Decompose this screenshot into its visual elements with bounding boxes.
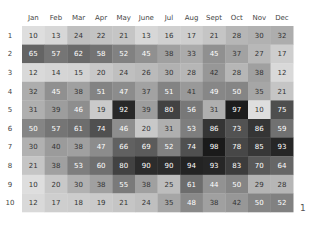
cell-value-label: 30 <box>74 181 83 189</box>
cell-value-label: 13 <box>51 32 60 40</box>
cell-value-label: 32 <box>29 88 38 96</box>
cell-value-label: 38 <box>51 162 60 170</box>
cell-value-label: 80 <box>164 106 173 114</box>
cell-value-label: 19 <box>97 106 106 114</box>
cell-value-label: 86 <box>210 125 219 133</box>
cell-value-label: 92 <box>119 106 128 114</box>
x-tick-label: Jan <box>27 14 39 22</box>
cell-value-label: 10 <box>29 181 38 189</box>
x-tick-label: Oct <box>231 14 243 22</box>
cell-value-label: 59 <box>277 125 286 133</box>
x-tick-label: Apr <box>95 14 107 22</box>
cell-value-label: 64 <box>277 162 286 170</box>
cell-value-label: 37 <box>232 50 241 58</box>
x-tick-label: Sept <box>206 14 222 22</box>
cell-value-label: 65 <box>29 50 38 58</box>
cell-value-label: 69 <box>142 143 151 151</box>
cell-value-label: 21 <box>277 88 286 96</box>
cell-value-label: 14 <box>51 69 60 77</box>
cell-value-label: 30 <box>29 143 38 151</box>
cell-value-label: 51 <box>164 88 173 96</box>
cell-value-label: 12 <box>29 199 38 207</box>
cell-value-label: 74 <box>97 125 106 133</box>
cell-value-label: 20 <box>97 69 106 77</box>
cell-value-label: 38 <box>210 199 219 207</box>
cell-value-label: 50 <box>29 125 38 133</box>
y-tick-label: 8 <box>8 162 12 170</box>
cell-value-label: 50 <box>232 88 241 96</box>
cell-value-label: 28 <box>277 181 286 189</box>
cell-value-label: 46 <box>119 125 128 133</box>
x-tick-label: May <box>116 14 130 22</box>
cell-value-label: 21 <box>29 162 38 170</box>
cell-value-label: 30 <box>164 69 173 77</box>
heatmap-chart: JanFebMarAprMayJuneJulAugSeptOctNovDec12… <box>0 0 316 230</box>
cell-value-label: 53 <box>187 125 196 133</box>
cell-value-label: 73 <box>232 125 241 133</box>
cell-value-label: 17 <box>277 50 286 58</box>
cell-value-label: 62 <box>74 50 83 58</box>
cell-value-label: 45 <box>210 50 219 58</box>
y-tick-label: 7 <box>8 143 12 151</box>
cell-value-label: 49 <box>210 88 219 96</box>
cell-value-label: 21 <box>210 32 219 40</box>
cell-value-label: 66 <box>119 143 128 151</box>
cell-value-label: 38 <box>97 181 106 189</box>
cell-value-label: 33 <box>187 50 196 58</box>
cell-value-label: 47 <box>119 88 128 96</box>
cell-value-label: 42 <box>210 69 219 77</box>
y-tick-label: 2 <box>8 50 12 58</box>
cell-value-label: 15 <box>74 69 83 77</box>
cell-value-label: 45 <box>142 50 151 58</box>
cell-value-label: 12 <box>277 69 286 77</box>
cell-value-label: 61 <box>74 125 83 133</box>
x-tick-label: Mar <box>72 14 85 22</box>
cell-value-label: 19 <box>97 199 106 207</box>
cell-value-label: 31 <box>29 106 38 114</box>
cell-value-label: 26 <box>142 69 151 77</box>
cell-value-label: 78 <box>232 143 241 151</box>
cell-value-label: 47 <box>97 143 106 151</box>
cell-value-label: 94 <box>187 162 196 170</box>
cell-value-label: 86 <box>255 125 264 133</box>
cell-value-label: 18 <box>74 199 83 207</box>
cell-value-label: 25 <box>164 181 173 189</box>
cell-value-label: 53 <box>74 162 83 170</box>
x-tick-label: Nov <box>252 14 266 22</box>
cell-value-label: 55 <box>119 181 128 189</box>
cell-value-label: 21 <box>119 32 128 40</box>
cell-value-label: 24 <box>142 199 151 207</box>
cell-value-label: 30 <box>255 32 264 40</box>
cell-value-label: 44 <box>210 181 219 189</box>
cell-value-label: 93 <box>210 162 219 170</box>
cell-value-label: 39 <box>51 106 60 114</box>
cell-value-label: 90 <box>164 162 173 170</box>
cell-value-label: 38 <box>164 50 173 58</box>
cell-value-label: 75 <box>277 106 286 114</box>
cell-value-label: 39 <box>142 106 151 114</box>
cell-value-label: 28 <box>232 32 241 40</box>
corner-mark-unidentified: 1 <box>300 203 306 213</box>
y-tick-label: 1 <box>8 32 12 40</box>
cell-value-label: 58 <box>97 50 106 58</box>
cell-value-label: 13 <box>142 32 151 40</box>
cell-value-label: 31 <box>164 125 173 133</box>
cell-value-label: 60 <box>97 162 106 170</box>
cell-value-label: 22 <box>97 32 106 40</box>
cell-value-label: 20 <box>142 125 151 133</box>
cell-value-label: 52 <box>164 143 173 151</box>
cell-value-label: 31 <box>210 106 219 114</box>
cell-value-label: 74 <box>187 143 196 151</box>
cell-value-label: 46 <box>74 106 83 114</box>
y-tick-label: 10 <box>6 199 15 207</box>
cell-value-label: 41 <box>187 88 196 96</box>
cell-value-label: 10 <box>29 32 38 40</box>
cell-value-label: 17 <box>187 32 196 40</box>
cell-value-label: 70 <box>255 162 264 170</box>
x-tick-label: Dec <box>275 14 289 22</box>
x-tick-label: Jul <box>164 14 174 22</box>
cell-value-label: 61 <box>187 181 196 189</box>
cell-value-label: 90 <box>142 162 151 170</box>
cell-value-label: 51 <box>97 88 106 96</box>
cell-value-label: 56 <box>187 106 196 114</box>
